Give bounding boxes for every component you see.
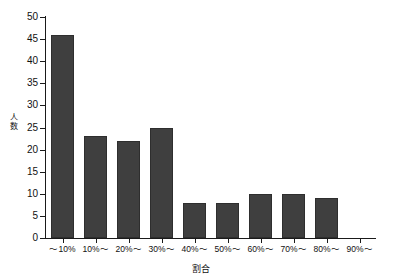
y-axis-tick-label: 5 (2, 211, 38, 221)
x-axis-tick (360, 239, 361, 243)
x-axis-title: 割合 (0, 262, 402, 275)
y-axis-tick-label: 0 (2, 233, 38, 243)
bar (51, 35, 75, 238)
bar (249, 194, 273, 238)
y-axis-tick-label: 15 (2, 167, 38, 177)
x-axis-tick-label: 40%～ (181, 245, 207, 254)
x-axis-tick (129, 239, 130, 243)
y-axis-tick (40, 128, 45, 129)
x-axis-tick (162, 239, 163, 243)
x-axis-tick (63, 239, 64, 243)
x-axis-tick-label: 70%～ (280, 245, 306, 254)
bar (84, 136, 108, 238)
y-axis-tick-label: 45 (2, 34, 38, 44)
bar (216, 203, 240, 238)
y-axis-tick-label: 35 (2, 78, 38, 88)
y-axis-tick-label: 40 (2, 56, 38, 66)
x-axis-tick (228, 239, 229, 243)
bar (117, 141, 141, 238)
x-axis-tick-label: 60%～ (247, 245, 273, 254)
plot-area (46, 17, 376, 238)
bar (150, 128, 174, 239)
bar (315, 198, 339, 238)
x-axis-tick-label: 50%～ (214, 245, 240, 254)
x-axis-tick-label: 80%～ (313, 245, 339, 254)
x-axis-tick (327, 239, 328, 243)
y-axis-tick (40, 194, 45, 195)
y-axis-tick (40, 238, 45, 239)
bar-chart: 人 数 05101520253035404550 ～10%10%～20%～30%… (0, 0, 402, 280)
y-axis-tick (40, 17, 45, 18)
y-axis-tick-label: 10 (2, 189, 38, 199)
y-axis-tick (40, 216, 45, 217)
x-axis-tick-label: 30%～ (148, 245, 174, 254)
bar (183, 203, 207, 238)
y-axis-tick-label: 25 (2, 123, 38, 133)
y-axis-title-char-1: 人 (8, 113, 20, 122)
y-axis-tick (40, 83, 45, 84)
y-axis-tick-label: 20 (2, 145, 38, 155)
y-axis-tick (40, 172, 45, 173)
y-axis-tick-label: 50 (2, 12, 38, 22)
x-axis-tick-label: 90%～ (346, 245, 372, 254)
y-axis-tick (40, 39, 45, 40)
x-axis-tick (294, 239, 295, 243)
bar (282, 194, 306, 238)
y-axis-tick-label: 30 (2, 100, 38, 110)
x-axis-tick-label: 10%～ (82, 245, 108, 254)
x-axis-tick (195, 239, 196, 243)
x-axis-tick (96, 239, 97, 243)
x-axis-tick-label: 20%～ (115, 245, 141, 254)
x-axis-tick (261, 239, 262, 243)
y-axis-tick (40, 105, 45, 106)
y-axis-tick (40, 61, 45, 62)
x-axis-tick-label: ～10% (49, 245, 75, 254)
y-axis-tick (40, 150, 45, 151)
